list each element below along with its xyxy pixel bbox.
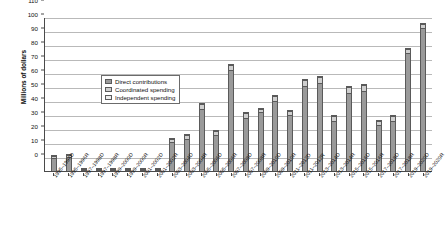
bar-slot[interactable]: [327, 18, 342, 171]
x-label-slot: 1995–1996R: [61, 173, 76, 225]
legend-swatch-direct-icon: [105, 79, 112, 84]
legend-item-independent: Independent spending: [105, 94, 175, 101]
x-label-slot: 2019–2020R: [415, 173, 430, 225]
y-axis: Millions of dollars 01020304050607080901…: [0, 0, 44, 154]
y-axis-title: Millions of dollars: [20, 50, 27, 104]
x-axis-tick-labels: 1995–1996D1995–1996R1997–1998D1997–1998R…: [44, 173, 432, 225]
legend-swatch-independent-icon: [105, 95, 112, 100]
bar-slot[interactable]: [253, 18, 268, 171]
y-tick-label: 70: [31, 53, 38, 60]
bar-slot[interactable]: [239, 18, 254, 171]
bar-slot[interactable]: [62, 18, 77, 171]
bar-slot[interactable]: [76, 18, 91, 171]
plot-area: Direct contributions Coordinated spendin…: [44, 18, 432, 172]
bar-slot[interactable]: [268, 18, 283, 171]
x-label-slot: 2011–2012D: [282, 173, 297, 225]
bar-slot[interactable]: [386, 18, 401, 171]
legend: Direct contributions Coordinated spendin…: [101, 75, 180, 104]
bar-slot[interactable]: [312, 18, 327, 171]
legend-label-direct: Direct contributions: [115, 78, 167, 85]
x-label-slot: 2001–2002D: [135, 173, 150, 225]
x-label-slot: 2011–2012R: [297, 173, 312, 225]
stacked-bar[interactable]: [420, 23, 426, 171]
legend-item-coordinated: Coordinated spending: [105, 86, 175, 93]
x-label-slot: 1995–1996D: [46, 173, 61, 225]
x-label-slot: 2013–2014D: [312, 173, 327, 225]
legend-item-direct: Direct contributions: [105, 78, 175, 85]
x-label-slot: 1997–1998D: [76, 173, 91, 225]
y-tick-label: 110: [28, 0, 38, 4]
legend-swatch-coordinated-icon: [105, 87, 112, 92]
bar-slot[interactable]: [356, 18, 371, 171]
y-tick-label: 30: [31, 109, 38, 116]
bar-slot[interactable]: [401, 18, 416, 171]
y-tick-label: 90: [31, 25, 38, 32]
y-tick-label: 20: [31, 123, 38, 130]
y-tick-label: 10: [31, 137, 38, 144]
y-tick-mark: [41, 14, 44, 15]
legend-label-independent: Independent spending: [115, 94, 175, 101]
x-label-slot: 2003–2004D: [164, 173, 179, 225]
x-label-slot: 2009–2010D: [253, 173, 268, 225]
bar-slot[interactable]: [371, 18, 386, 171]
y-tick-label: 80: [31, 39, 38, 46]
x-label-slot: 2009–2010R: [267, 173, 282, 225]
y-tick-label: 40: [31, 95, 38, 102]
x-label-slot: 2005–2006D: [194, 173, 209, 225]
x-label-slot: 2013–2014R: [327, 173, 342, 225]
y-tick-label: 60: [31, 67, 38, 74]
legend-label-coordinated: Coordinated spending: [115, 86, 175, 93]
y-tick-label: 50: [31, 81, 38, 88]
x-label-slot: 2003–2004R: [179, 173, 194, 225]
y-tick-mark: [41, 0, 44, 1]
x-label-slot: 2007–2008R: [238, 173, 253, 225]
bar-slot[interactable]: [224, 18, 239, 171]
y-tick-label: 0: [35, 151, 38, 158]
bar-slot[interactable]: [283, 18, 298, 171]
bar-slot[interactable]: [342, 18, 357, 171]
x-label-slot: 2007–2008D: [223, 173, 238, 225]
x-label-slot: 2017–2018D: [371, 173, 386, 225]
x-label-slot: 2015–2016D: [341, 173, 356, 225]
y-tick-label: 100: [28, 11, 38, 18]
x-label-slot: 2017–2018R: [386, 173, 401, 225]
bar-segment-direct: [420, 28, 426, 171]
bar-slot[interactable]: [415, 18, 430, 171]
bar-slot[interactable]: [47, 18, 62, 171]
x-label-slot: 1997–1998R: [90, 173, 105, 225]
x-label-slot: 1999–2000R: [120, 173, 135, 225]
x-label-slot: 2001–2002R: [149, 173, 164, 225]
bar-slot[interactable]: [194, 18, 209, 171]
x-label-slot: 1999–2000D: [105, 173, 120, 225]
bar-slot[interactable]: [297, 18, 312, 171]
bar-slot[interactable]: [209, 18, 224, 171]
x-label-slot: 2015–2016R: [356, 173, 371, 225]
x-label-slot: 2005–2006R: [208, 173, 223, 225]
x-label-slot: 2019–2020D: [400, 173, 415, 225]
bar-slot[interactable]: [180, 18, 195, 171]
